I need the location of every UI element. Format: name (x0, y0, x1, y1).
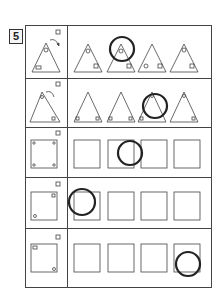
row-3-prompt (31, 131, 60, 168)
question-number: 5 (9, 29, 23, 44)
row-4-prompt (31, 182, 60, 220)
answer-circles (69, 37, 200, 276)
row-2-options (74, 92, 198, 122)
row-5-options (74, 244, 200, 272)
puzzle-table (25, 25, 212, 288)
row-1-prompt (32, 30, 60, 72)
row-5-prompt (31, 235, 60, 272)
row-2-prompt (30, 82, 60, 122)
figures (26, 26, 213, 289)
row-1-options (74, 44, 198, 72)
